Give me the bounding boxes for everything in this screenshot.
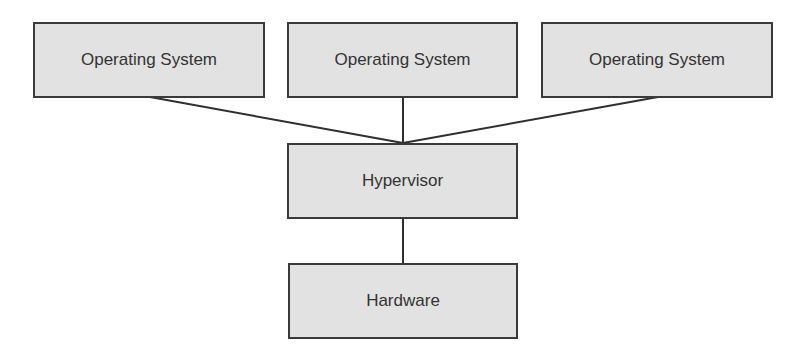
hypervisor-box: Hypervisor	[287, 143, 518, 219]
edge-os3-hypervisor	[403, 97, 658, 143]
edge-os1-hypervisor	[150, 97, 403, 143]
os-box-1: Operating System	[33, 22, 265, 98]
hardware-box: Hardware	[288, 263, 518, 339]
os-box-3-label: Operating System	[589, 50, 725, 70]
hypervisor-label: Hypervisor	[362, 171, 443, 191]
os-box-1-label: Operating System	[81, 50, 217, 70]
os-box-3: Operating System	[541, 22, 773, 98]
os-box-2-label: Operating System	[334, 50, 470, 70]
hardware-label: Hardware	[366, 291, 440, 311]
os-box-2: Operating System	[287, 22, 518, 98]
